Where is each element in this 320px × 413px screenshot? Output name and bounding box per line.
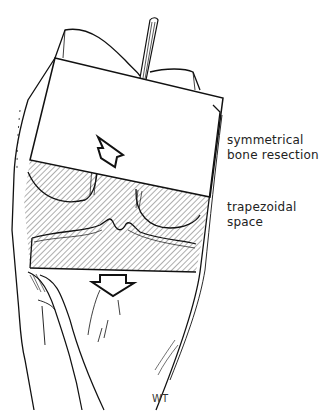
trapezoidal-space-label: trapezoidal space	[227, 200, 296, 230]
resection-label-line2: bone resection	[227, 148, 319, 163]
space-label-line1: trapezoidal	[227, 200, 296, 215]
space-label-line2: space	[227, 215, 296, 230]
resection-label-line1: symmetrical	[227, 133, 319, 148]
resection-label: symmetrical bone resection	[227, 133, 319, 163]
artist-signature: WT	[152, 393, 168, 404]
